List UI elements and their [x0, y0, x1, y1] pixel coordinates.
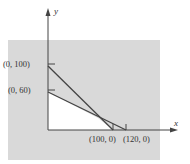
point-label-120-0: (120, 0)	[123, 134, 150, 144]
point-label-0-60: (0, 60)	[8, 85, 31, 95]
x-axis-arrow-icon	[170, 128, 178, 133]
y-axis-arrow-icon	[46, 8, 51, 16]
point-label-100-0: (100, 0)	[89, 134, 116, 144]
y-axis-label: y	[53, 6, 58, 16]
x-axis-label: x	[173, 118, 178, 128]
inequality-graph: y x (0, 100) (0, 60) (100, 0) (120, 0)	[0, 0, 190, 164]
point-label-0-100: (0, 100)	[3, 59, 30, 69]
